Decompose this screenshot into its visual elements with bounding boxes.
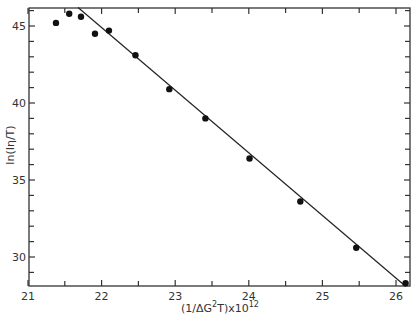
fit-line <box>78 8 406 287</box>
scatter-chart: 21222324252630354045 (1/ΔG2T)x1012 ln(Iη… <box>0 0 416 317</box>
data-point <box>53 20 59 26</box>
tick-labels: 21222324252630354045 <box>12 20 403 303</box>
data-point <box>66 10 72 16</box>
axis-ticks <box>28 8 410 286</box>
y-tick-label: 30 <box>12 251 26 264</box>
data-point <box>246 155 252 161</box>
y-tick-label: 35 <box>12 174 26 187</box>
data-point <box>402 280 408 286</box>
y-tick-label: 45 <box>12 20 26 33</box>
x-axis-label: (1/ΔG2T)x1012 <box>181 300 259 315</box>
data-point <box>78 14 84 20</box>
data-point <box>132 52 138 58</box>
data-point <box>202 115 208 121</box>
data-point <box>353 245 359 251</box>
data-point <box>106 27 112 33</box>
x-tick-label: 21 <box>21 290 35 303</box>
y-tick-label: 40 <box>12 97 26 110</box>
x-tick-label: 22 <box>95 290 109 303</box>
data-points <box>53 10 409 286</box>
data-point <box>166 86 172 92</box>
x-tick-label: 26 <box>389 290 403 303</box>
y-axis-label: ln(Iη/T) <box>4 125 17 164</box>
data-point <box>92 31 98 37</box>
data-point <box>297 198 303 204</box>
plot-frame <box>29 8 410 286</box>
x-tick-label: 25 <box>315 290 329 303</box>
